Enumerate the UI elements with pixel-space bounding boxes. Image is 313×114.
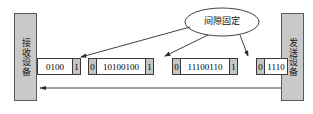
callout-label: 间隙固定 (194, 14, 250, 27)
callout-arrow-to-gap-2 (165, 35, 208, 56)
data-frame: 0 1110 (256, 58, 288, 75)
data-frame: 0 10100100 1 (88, 58, 154, 75)
data-frame: 0 11100110 1 (172, 58, 238, 75)
data-frame: 0100 1 (37, 58, 81, 75)
frame-payload: 11100110 (181, 59, 229, 74)
frame-end-flag: 1 (145, 59, 153, 74)
frame-start-flag: 0 (257, 59, 265, 74)
receiver-device-label: 接收设备 (20, 38, 31, 76)
frame-payload: 0100 (38, 59, 72, 74)
frame-start-flag: 0 (89, 59, 97, 74)
callout-arrow-to-gap-1 (81, 27, 190, 57)
frame-payload: 10100100 (97, 59, 145, 74)
frame-end-flag: 1 (229, 59, 237, 74)
sender-device-box: 发送设备 (281, 13, 304, 101)
frame-gap-diagram: 接收设备 发送设备 0100 1 0 10100100 1 0 11100110… (0, 0, 313, 114)
callout-arrow-to-gap-3 (240, 35, 248, 56)
frame-payload: 1110 (265, 59, 287, 74)
receiver-device-box: 接收设备 (14, 13, 37, 101)
sender-device-label: 发送设备 (287, 38, 298, 76)
frame-start-flag: 0 (173, 59, 181, 74)
frame-end-flag: 1 (72, 59, 80, 74)
diagram-overlay (0, 0, 313, 114)
